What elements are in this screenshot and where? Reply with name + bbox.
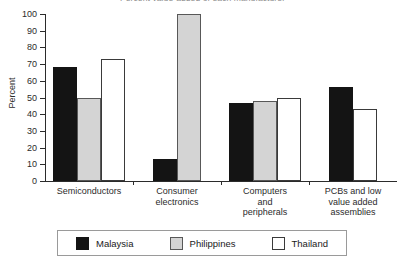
y-tick-20: 20 bbox=[40, 148, 45, 149]
bar-philippines-consumer-electronics bbox=[177, 14, 201, 181]
bar-malaysia-consumer-electronics bbox=[153, 159, 177, 181]
bar-thailand-pcbs-and-low-value-added-assemblies bbox=[353, 109, 377, 181]
y-tick-label-90: 90 bbox=[27, 26, 37, 36]
y-tick-70: 70 bbox=[40, 64, 45, 65]
x-tick-1 bbox=[133, 181, 134, 185]
legend-item-philippines[interactable]: Philippines bbox=[170, 237, 236, 250]
y-tick-label-20: 20 bbox=[27, 143, 37, 153]
x-category-label-pcbs-and-low-value-added-assemblies: PCBs and low value added assemblies bbox=[309, 186, 397, 218]
legend-label-malaysia: Malaysia bbox=[96, 238, 134, 249]
y-axis-label: Percent bbox=[7, 61, 17, 125]
x-category-label-computers-and-peripherals: Computers and peripherals bbox=[221, 186, 309, 218]
y-tick-40: 40 bbox=[40, 114, 45, 115]
legend-label-philippines: Philippines bbox=[190, 238, 236, 249]
y-tick-label-40: 40 bbox=[27, 109, 37, 119]
y-tick-50: 50 bbox=[40, 98, 45, 99]
y-tick-label-50: 50 bbox=[27, 93, 37, 103]
legend-swatch-philippines bbox=[170, 237, 183, 250]
bar-malaysia-semiconductors bbox=[53, 67, 77, 181]
y-tick-0: 0 bbox=[40, 181, 45, 182]
y-tick-label-0: 0 bbox=[32, 176, 37, 186]
chart-legend: MalaysiaPhilippinesThailand bbox=[57, 230, 347, 256]
y-axis-line bbox=[45, 14, 46, 181]
y-tick-30: 30 bbox=[40, 131, 45, 132]
y-tick-80: 80 bbox=[40, 47, 45, 48]
x-category-label-semiconductors: Semiconductors bbox=[45, 186, 133, 197]
x-tick-3 bbox=[309, 181, 310, 185]
bar-thailand-semiconductors bbox=[101, 59, 125, 181]
bar-malaysia-computers-and-peripherals bbox=[229, 103, 253, 181]
legend-item-malaysia[interactable]: Malaysia bbox=[76, 237, 134, 250]
x-tick-2 bbox=[221, 181, 222, 185]
plot-area: 0102030405060708090100 bbox=[45, 14, 397, 181]
legend-item-thailand[interactable]: Thailand bbox=[272, 237, 328, 250]
y-tick-label-70: 70 bbox=[27, 59, 37, 69]
y-tick-label-10: 10 bbox=[27, 159, 37, 169]
chart-title: Percent value-added of each manufacturer bbox=[120, 0, 285, 3]
bar-malaysia-pcbs-and-low-value-added-assemblies bbox=[329, 87, 353, 181]
legend-label-thailand: Thailand bbox=[292, 238, 328, 249]
legend-swatch-thailand bbox=[272, 237, 285, 250]
y-tick-label-100: 100 bbox=[22, 9, 37, 19]
x-category-label-consumer-electronics: Consumer electronics bbox=[133, 186, 221, 207]
bar-philippines-semiconductors bbox=[77, 98, 101, 182]
y-tick-label-30: 30 bbox=[27, 126, 37, 136]
y-tick-60: 60 bbox=[40, 81, 45, 82]
bar-chart: Percent value-added of each manufacturer… bbox=[0, 0, 405, 262]
bar-philippines-computers-and-peripherals bbox=[253, 101, 277, 181]
bar-thailand-computers-and-peripherals bbox=[277, 98, 301, 182]
y-tick-90: 90 bbox=[40, 31, 45, 32]
y-tick-label-60: 60 bbox=[27, 76, 37, 86]
y-tick-10: 10 bbox=[40, 164, 45, 165]
chart-title-cropped: Percent value-added of each manufacturer bbox=[0, 0, 405, 7]
y-tick-100: 100 bbox=[40, 14, 45, 15]
y-tick-label-80: 80 bbox=[27, 42, 37, 52]
legend-swatch-malaysia bbox=[76, 237, 89, 250]
